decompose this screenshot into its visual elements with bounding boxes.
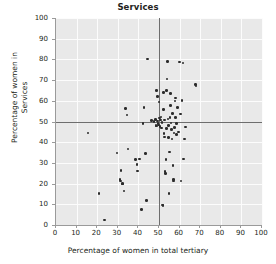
data-point — [168, 192, 171, 195]
data-point — [181, 99, 184, 102]
y-axis-tick-label: 100 — [24, 14, 48, 22]
data-point — [138, 158, 141, 161]
y-axis-tick — [52, 101, 55, 102]
x-axis-tick-label: 20 — [86, 229, 106, 237]
y-axis-tick-label: 30 — [24, 159, 48, 167]
x-axis-label: Percentage of women in total tertiary — [0, 246, 276, 255]
x-axis-tick-label: 60 — [169, 229, 189, 237]
x-axis-tick — [158, 225, 159, 228]
data-point — [161, 121, 164, 124]
x-axis-tick-label: 50 — [148, 229, 168, 237]
data-point — [179, 113, 182, 116]
data-point — [173, 126, 176, 129]
data-point — [166, 60, 169, 63]
data-point — [145, 199, 148, 202]
x-axis-tick — [96, 225, 97, 228]
y-axis-tick — [52, 59, 55, 60]
y-axis-tick-label: 20 — [24, 180, 48, 188]
data-point — [182, 158, 185, 161]
data-point — [182, 62, 185, 65]
x-axis-tick — [220, 225, 221, 228]
data-point — [126, 114, 129, 117]
data-point — [175, 133, 178, 136]
y-axis-tick-label: 80 — [24, 55, 48, 63]
data-point — [163, 136, 166, 139]
y-axis-tick — [52, 225, 55, 226]
data-point — [172, 164, 175, 167]
y-axis-tick-label: 70 — [24, 76, 48, 84]
y-axis-tick — [52, 18, 55, 19]
data-point — [98, 192, 101, 195]
x-axis-tick-label: 90 — [230, 229, 250, 237]
data-point — [136, 170, 139, 173]
data-point — [170, 128, 173, 131]
data-point — [167, 136, 170, 139]
y-axis-tick-label: 60 — [24, 97, 48, 105]
y-axis-tick-label: 0 — [24, 221, 48, 229]
data-point — [153, 120, 156, 123]
data-point — [142, 122, 145, 125]
data-point — [195, 85, 198, 88]
data-point — [155, 89, 158, 92]
y-axis-tick — [52, 163, 55, 164]
x-axis-tick — [55, 225, 56, 228]
y-axis-tick — [52, 204, 55, 205]
y-axis-tick — [52, 122, 55, 123]
data-point — [163, 132, 166, 135]
data-point — [177, 131, 180, 134]
x-axis-tick-label: 70 — [189, 229, 209, 237]
data-point — [174, 100, 177, 103]
gridline-vertical — [262, 18, 263, 225]
scatter-chart-figure: Services Percentage of women in total te… — [0, 0, 276, 264]
data-point — [176, 106, 179, 109]
data-point — [168, 151, 171, 154]
data-point — [127, 148, 130, 151]
plot-area — [55, 18, 262, 226]
data-point — [169, 116, 172, 119]
data-point — [162, 204, 165, 207]
data-point — [172, 180, 175, 183]
x-axis-tick — [137, 225, 138, 228]
y-axis-tick — [52, 80, 55, 81]
data-point — [162, 91, 165, 94]
x-axis-tick-label: 100 — [251, 229, 271, 237]
data-point — [121, 182, 124, 185]
y-axis-tick — [52, 184, 55, 185]
x-axis-tick-label: 10 — [66, 229, 86, 237]
y-axis-tick-label: 10 — [24, 200, 48, 208]
data-point — [134, 158, 137, 161]
x-axis-tick — [261, 225, 262, 228]
data-point — [144, 152, 147, 155]
x-axis-tick — [240, 225, 241, 228]
data-point — [164, 172, 167, 175]
data-point — [165, 158, 168, 161]
chart-title: Services — [0, 2, 276, 12]
y-axis-tick-label: 40 — [24, 138, 48, 146]
x-axis-tick — [199, 225, 200, 228]
y-axis-tick — [52, 39, 55, 40]
data-point — [184, 126, 187, 129]
data-point — [165, 89, 168, 92]
x-axis-tick — [117, 225, 118, 228]
data-point — [143, 106, 146, 109]
data-point — [175, 122, 178, 125]
y-axis-tick-label: 90 — [24, 35, 48, 43]
x-axis-tick-label: 30 — [107, 229, 127, 237]
data-point — [123, 190, 126, 193]
data-point — [160, 127, 163, 130]
data-point — [171, 138, 174, 141]
x-axis-tick — [76, 225, 77, 228]
x-axis-tick — [179, 225, 180, 228]
data-point — [120, 169, 123, 172]
data-point — [169, 92, 172, 95]
x-axis-tick-label: 40 — [127, 229, 147, 237]
x-axis-tick-label: 0 — [45, 229, 65, 237]
data-point — [124, 107, 127, 110]
data-point — [160, 116, 163, 119]
y-axis-tick — [52, 142, 55, 143]
reference-line-horizontal — [56, 122, 262, 123]
data-point — [183, 138, 186, 141]
data-point — [174, 97, 177, 100]
data-point — [169, 104, 172, 107]
x-axis-tick-label: 80 — [210, 229, 230, 237]
